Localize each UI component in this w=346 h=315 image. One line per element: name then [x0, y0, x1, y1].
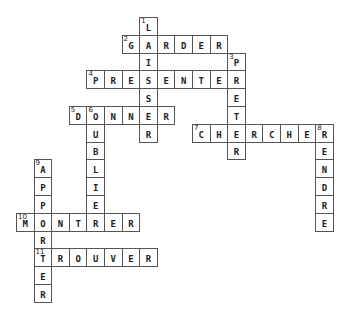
crossword-cell[interactable]: R	[157, 35, 176, 54]
cell-letter: N	[128, 112, 133, 122]
crossword-cell[interactable]: D5	[69, 106, 88, 125]
crossword-cell[interactable]: R	[86, 213, 105, 232]
crossword-cell[interactable]: R	[51, 248, 70, 267]
crossword-cell[interactable]: D	[315, 177, 334, 196]
cell-letter: U	[93, 254, 98, 264]
crossword-cell[interactable]: R	[315, 195, 334, 214]
crossword-cell[interactable]: N	[51, 213, 70, 232]
crossword-cell[interactable]: E	[122, 248, 141, 267]
clue-number: 5	[71, 106, 75, 114]
crossword-cell[interactable]: R	[139, 124, 158, 143]
crossword-cell[interactable]: U	[86, 248, 105, 267]
crossword-cell[interactable]: R	[245, 124, 264, 143]
cell-letter: V	[111, 254, 116, 264]
crossword-cell[interactable]: P4	[86, 70, 105, 89]
crossword-cell[interactable]: P	[34, 195, 53, 214]
cell-letter: R	[322, 201, 327, 211]
crossword-cell[interactable]: E	[104, 213, 123, 232]
crossword-cell[interactable]: O	[69, 248, 88, 267]
cell-letter: P	[40, 201, 45, 211]
clue-number: 6	[88, 106, 92, 114]
crossword-cell[interactable]: R	[157, 106, 176, 125]
crossword-cell[interactable]: R	[34, 284, 53, 303]
cell-letter: E	[40, 272, 45, 282]
cell-letter: E	[111, 219, 116, 229]
crossword-cell[interactable]: R	[227, 142, 246, 161]
cell-letter: E	[128, 76, 133, 86]
crossword-cell[interactable]: R	[104, 70, 123, 89]
crossword-cell[interactable]: E	[298, 124, 317, 143]
cell-letter: D	[181, 41, 186, 51]
cell-letter: N	[58, 219, 63, 229]
crossword-cell[interactable]: N	[122, 106, 141, 125]
crossword-cell[interactable]: I	[139, 53, 158, 72]
crossword-cell[interactable]: N	[315, 159, 334, 178]
cell-letter: C	[269, 130, 274, 140]
crossword-cell[interactable]: D	[174, 35, 193, 54]
crossword-cell[interactable]: E	[315, 142, 334, 161]
clue-number: 4	[88, 70, 92, 78]
crossword-cell[interactable]: R	[227, 70, 246, 89]
cell-letter: E	[216, 76, 221, 86]
crossword-cell[interactable]: I	[86, 177, 105, 196]
crossword-grid: L1AISSERG2RDERP3RETERP4REENTED5O6NNRUBLI…	[0, 0, 346, 315]
crossword-cell[interactable]: P	[34, 177, 53, 196]
crossword-cell[interactable]: H	[210, 124, 229, 143]
crossword-cell[interactable]: T	[192, 70, 211, 89]
crossword-cell[interactable]: M10	[16, 213, 35, 232]
cell-letter: B	[93, 147, 98, 157]
crossword-cell[interactable]: E	[227, 124, 246, 143]
cell-letter: O	[93, 112, 98, 122]
cell-letter: E	[304, 130, 309, 140]
crossword-cell[interactable]: L1	[139, 17, 158, 36]
crossword-cell[interactable]: E	[192, 35, 211, 54]
crossword-cell[interactable]: R	[34, 231, 53, 250]
crossword-cell[interactable]: P3	[227, 53, 246, 72]
clue-number: 7	[194, 124, 198, 132]
crossword-cell[interactable]: T	[69, 213, 88, 232]
clue-number: 1	[141, 17, 145, 25]
crossword-cell[interactable]: E	[227, 88, 246, 107]
cell-letter: T	[75, 219, 80, 229]
cell-letter: E	[93, 201, 98, 211]
cell-letter: R	[163, 41, 168, 51]
crossword-cell[interactable]: O6	[86, 106, 105, 125]
cell-letter: E	[234, 94, 239, 104]
crossword-cell[interactable]: N	[104, 106, 123, 125]
crossword-cell[interactable]: G2	[122, 35, 141, 54]
crossword-cell[interactable]: E	[86, 195, 105, 214]
crossword-cell[interactable]: E	[139, 106, 158, 125]
crossword-cell[interactable]: H	[280, 124, 299, 143]
crossword-cell[interactable]: E	[210, 70, 229, 89]
crossword-cell[interactable]: A	[139, 35, 158, 54]
cell-letter: P	[93, 76, 98, 86]
crossword-cell[interactable]: C7	[192, 124, 211, 143]
cell-letter: H	[216, 130, 221, 140]
crossword-cell[interactable]: E	[34, 266, 53, 285]
crossword-cell[interactable]: S	[139, 70, 158, 89]
crossword-cell[interactable]: R	[210, 35, 229, 54]
crossword-cell[interactable]: R8	[315, 124, 334, 143]
crossword-cell[interactable]: U	[86, 124, 105, 143]
crossword-cell[interactable]: N	[174, 70, 193, 89]
clue-number: 10	[18, 213, 27, 221]
crossword-cell[interactable]: A9	[34, 159, 53, 178]
crossword-cell[interactable]: L	[86, 159, 105, 178]
crossword-cell[interactable]: C	[262, 124, 281, 143]
crossword-cell[interactable]: R	[122, 213, 141, 232]
crossword-cell[interactable]: E	[315, 213, 334, 232]
crossword-cell[interactable]: E	[157, 70, 176, 89]
cell-letter: E	[234, 130, 239, 140]
crossword-cell[interactable]: V	[104, 248, 123, 267]
crossword-cell[interactable]: S	[139, 88, 158, 107]
crossword-cell[interactable]: E	[122, 70, 141, 89]
crossword-cell[interactable]: O	[34, 213, 53, 232]
cell-letter: E	[128, 254, 133, 264]
cell-letter: R	[216, 41, 221, 51]
cell-letter: P	[234, 58, 239, 68]
crossword-cell[interactable]: R	[139, 248, 158, 267]
crossword-cell[interactable]: T	[227, 106, 246, 125]
crossword-cell[interactable]: B	[86, 142, 105, 161]
crossword-cell[interactable]: T11	[34, 248, 53, 267]
clue-number: 11	[36, 248, 45, 256]
